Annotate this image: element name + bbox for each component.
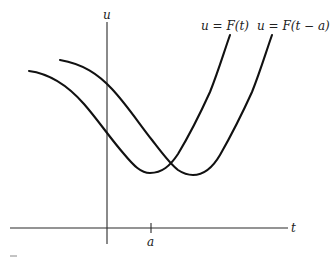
u-axis-label: u [103, 8, 111, 22]
curve-f-t-minus-a [60, 35, 272, 175]
curve-label-f-t: u = F(t) [201, 19, 249, 33]
t-axis-label: t [291, 221, 296, 235]
curve-f-t [29, 35, 230, 173]
a-tick-label: a [147, 235, 154, 249]
curve-label-f-t-minus-a: u = F(t − a) [257, 19, 330, 33]
shift-diagram: u t a u = F(t) u = F(t − a) [0, 0, 330, 258]
